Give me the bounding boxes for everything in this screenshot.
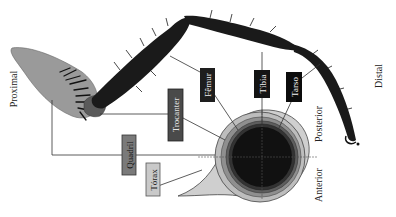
label-torax-text: Tórax xyxy=(149,169,159,191)
label-quadril: Quadril xyxy=(122,135,136,175)
label-femur-text: Fêmur xyxy=(203,73,213,97)
insect-leg-diagram: Quadril Tórax Trocanter Fêmur Tíbia Tars… xyxy=(0,0,396,217)
label-proximal: Proximal xyxy=(8,70,19,107)
tibia-shape xyxy=(184,16,298,50)
label-femur: Fêmur xyxy=(200,68,215,102)
label-torax: Tórax xyxy=(146,163,160,196)
label-trocanter: Trocanter xyxy=(168,89,183,141)
label-distal: Distal xyxy=(373,64,384,88)
label-quadril-text: Quadril xyxy=(125,141,135,169)
label-tibia-text: Tíbia xyxy=(258,75,268,94)
label-posterior: Posterior xyxy=(313,105,324,142)
label-anterior: Anterior xyxy=(313,167,324,202)
label-tarso-text: Tarso xyxy=(290,77,300,97)
label-trocanter-text: Trocanter xyxy=(171,98,181,133)
label-tarso: Tarso xyxy=(286,72,302,102)
label-tibia: Tíbia xyxy=(254,70,270,98)
